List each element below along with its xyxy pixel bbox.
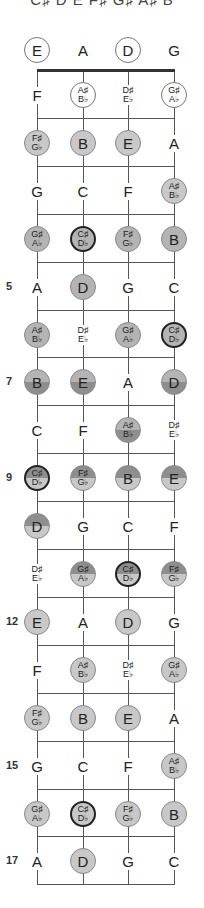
note-label: A bbox=[169, 135, 179, 152]
note-marker-circle: F♯G♭ bbox=[70, 465, 96, 491]
note-fret6-string-d: G♯A♭ bbox=[114, 321, 142, 349]
note-marker-circle: G♯A♭ bbox=[24, 226, 50, 252]
note-fret9-string-a: F♯G♭ bbox=[69, 464, 97, 492]
note-fret16-string-a: C♯D♭ bbox=[69, 800, 97, 828]
note-fret5-string-e: A bbox=[23, 273, 51, 301]
flat-name: E♭ bbox=[32, 574, 43, 583]
nut bbox=[37, 69, 175, 72]
note-label: C bbox=[78, 758, 89, 775]
note-marker-circle: G♯A♭ bbox=[161, 82, 187, 108]
note-fret16-string-g: B bbox=[160, 800, 188, 828]
flat-name: G♭ bbox=[168, 574, 179, 583]
flat-name: G♭ bbox=[77, 478, 88, 487]
note-marker-circle: F♯G♭ bbox=[24, 130, 50, 156]
note-marker-circle: D bbox=[115, 609, 141, 635]
note-fret15-string-a: C bbox=[69, 752, 97, 780]
flat-name: A♭ bbox=[77, 574, 89, 583]
note-fret15-string-e: G bbox=[23, 752, 51, 780]
note-marker-circle: C♯D♭ bbox=[70, 801, 96, 827]
note-marker-circle: E bbox=[115, 130, 141, 156]
note-marker-circle: A♯B♭ bbox=[115, 417, 141, 443]
note-marker-circle: G♯A♭ bbox=[24, 801, 50, 827]
note-marker-circle: F♯G♭ bbox=[24, 705, 50, 731]
fret-line bbox=[37, 693, 175, 694]
note-fret16-string-e: G♯A♭ bbox=[23, 800, 51, 828]
note-marker-circle: D bbox=[70, 848, 96, 874]
flat-name: B♭ bbox=[78, 95, 89, 104]
note-label: G bbox=[122, 853, 134, 870]
note-label: A bbox=[32, 279, 42, 296]
flat-name: A♭ bbox=[168, 95, 180, 104]
enharmonic-note-label: A♯B♭ bbox=[169, 757, 180, 775]
note-label: D bbox=[78, 854, 89, 869]
note-fret8-string-a: F bbox=[69, 416, 97, 444]
note-fret17-string-d: G bbox=[114, 847, 142, 875]
note-marker-circle: F♯G♭ bbox=[115, 226, 141, 252]
note-fret2-string-g: A bbox=[160, 129, 188, 157]
note-label: F bbox=[78, 422, 87, 439]
note-fret12-string-d: D bbox=[114, 608, 142, 636]
flat-name: D♭ bbox=[32, 478, 43, 487]
note-marker-circle: E bbox=[161, 465, 187, 491]
flat-name: E♭ bbox=[123, 670, 134, 679]
fret-line bbox=[37, 118, 175, 119]
enharmonic-note-label: G♯A♭ bbox=[77, 565, 89, 583]
note-fret14-string-a: B bbox=[69, 704, 97, 732]
note-marker-circle: A♯B♭ bbox=[161, 753, 187, 779]
note-label: A bbox=[32, 853, 42, 870]
fret-number: 9 bbox=[6, 471, 22, 483]
note-fret1-string-d: D♯E♭ bbox=[114, 81, 142, 109]
note-fret3-string-g: A♯B♭ bbox=[160, 177, 188, 205]
note-marker-circle: D bbox=[115, 37, 141, 63]
note-fret10-string-g: F bbox=[160, 512, 188, 540]
note-fret5-string-d: G bbox=[114, 273, 142, 301]
fret-line bbox=[37, 789, 175, 790]
note-fret4-string-d: F♯G♭ bbox=[114, 225, 142, 253]
note-fret2-string-e: F♯G♭ bbox=[23, 129, 51, 157]
note-label: F bbox=[169, 518, 178, 535]
note-fret4-string-a: C♯D♭ bbox=[69, 225, 97, 253]
note-fret2-string-d: E bbox=[114, 129, 142, 157]
note-label: E bbox=[32, 43, 42, 58]
note-label: D bbox=[32, 519, 43, 534]
flat-name: B♭ bbox=[123, 430, 134, 439]
note-fret8-string-g: D♯E♭ bbox=[160, 416, 188, 444]
flat-name: D♭ bbox=[169, 335, 180, 344]
note-marker-circle: A♯B♭ bbox=[24, 322, 50, 348]
note-label: B bbox=[169, 807, 179, 822]
flat-name: E♭ bbox=[169, 430, 180, 439]
flat-name: D♭ bbox=[78, 814, 89, 823]
enharmonic-note-label: F♯G♭ bbox=[31, 709, 42, 727]
note-fret17-string-g: C bbox=[160, 847, 188, 875]
note-fret16-string-d: F♯G♭ bbox=[114, 800, 142, 828]
note-fret7-string-d: A bbox=[114, 368, 142, 396]
note-label: D bbox=[169, 375, 180, 390]
note-fret6-string-e: A♯B♭ bbox=[23, 321, 51, 349]
note-marker-circle: D bbox=[24, 513, 50, 539]
note-fret6-string-g: C♯D♭ bbox=[160, 321, 188, 349]
note-label: G bbox=[122, 279, 134, 296]
enharmonic-note-label: D♯E♭ bbox=[78, 325, 89, 345]
fretboard-diagram: 579121517EADGFA♯B♭D♯E♭G♯A♭F♯G♭BEAGCFA♯B♭… bbox=[0, 0, 204, 908]
note-marker-circle: F♯G♭ bbox=[161, 561, 187, 587]
note-fret10-string-e: D bbox=[23, 512, 51, 540]
fret-number: 7 bbox=[6, 375, 22, 387]
note-fret4-string-g: B bbox=[160, 225, 188, 253]
note-label: B bbox=[169, 232, 179, 247]
note-marker-circle: C♯D♭ bbox=[24, 465, 50, 491]
fret-line bbox=[37, 166, 175, 167]
note-label: D bbox=[123, 43, 134, 58]
note-marker-circle: B bbox=[161, 801, 187, 827]
note-marker-circle: B bbox=[70, 705, 96, 731]
note-label: E bbox=[32, 615, 42, 630]
enharmonic-note-label: G♯A♭ bbox=[168, 661, 180, 679]
note-marker-circle: G♯A♭ bbox=[70, 561, 96, 587]
note-marker-circle: B bbox=[115, 465, 141, 491]
note-label: A bbox=[78, 42, 88, 59]
note-fret17-string-a: D bbox=[69, 847, 97, 875]
note-fret9-string-g: E bbox=[160, 464, 188, 492]
enharmonic-note-label: F♯G♭ bbox=[31, 134, 42, 152]
note-label: G bbox=[31, 183, 43, 200]
enharmonic-note-label: F♯G♭ bbox=[168, 565, 179, 583]
note-label: G bbox=[77, 518, 89, 535]
